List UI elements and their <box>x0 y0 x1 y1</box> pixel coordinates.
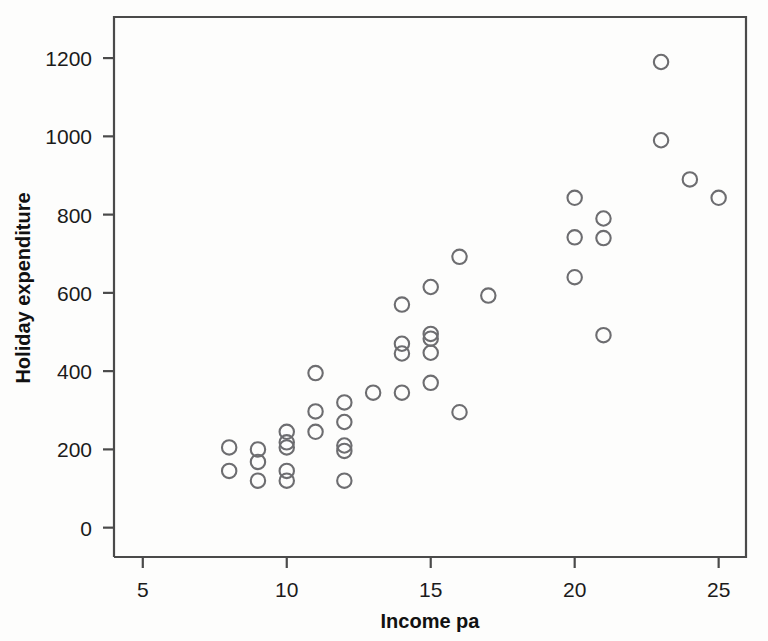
scatter-point <box>337 395 351 409</box>
scatter-point <box>596 211 610 225</box>
scatter-point <box>308 425 322 439</box>
scatter-point <box>222 464 236 478</box>
data-points <box>222 55 726 488</box>
y-tick-label: 0 <box>80 517 92 540</box>
scatter-point <box>395 297 409 311</box>
scatter-point <box>567 230 581 244</box>
scatter-point <box>308 404 322 418</box>
scatter-point <box>452 250 466 264</box>
y-tick-label: 1000 <box>45 125 92 148</box>
y-tick-label: 400 <box>57 360 92 383</box>
scatter-point <box>280 473 294 487</box>
x-tick-label: 10 <box>275 578 298 601</box>
x-axis-ticks: 510152025 <box>137 557 730 601</box>
y-tick-label: 200 <box>57 438 92 461</box>
scatter-point <box>567 191 581 205</box>
y-tick-label: 600 <box>57 282 92 305</box>
plot-canvas: 510152025 020040060080010001200 Income p… <box>0 0 768 641</box>
scatter-point <box>654 55 668 69</box>
scatter-point <box>424 280 438 294</box>
x-tick-label: 5 <box>137 578 149 601</box>
x-tick-label: 20 <box>563 578 586 601</box>
x-axis-title: Income pa <box>381 610 481 632</box>
scatter-point <box>424 346 438 360</box>
scatter-point <box>424 376 438 390</box>
scatter-point <box>683 172 697 186</box>
scatter-point <box>452 405 466 419</box>
y-tick-label: 1200 <box>45 47 92 70</box>
x-tick-label: 15 <box>419 578 442 601</box>
scatter-point <box>337 415 351 429</box>
plot-frame <box>114 17 746 557</box>
scatter-point <box>567 270 581 284</box>
scatter-point <box>711 191 725 205</box>
y-axis-title: Holiday expenditure <box>12 192 34 383</box>
scatter-point <box>395 385 409 399</box>
scatter-point <box>481 288 495 302</box>
scatter-plot-figure: 510152025 020040060080010001200 Income p… <box>0 0 768 641</box>
scatter-point <box>222 440 236 454</box>
x-tick-label: 25 <box>707 578 730 601</box>
scatter-point <box>251 473 265 487</box>
scatter-point <box>366 385 380 399</box>
y-axis-ticks: 020040060080010001200 <box>45 47 114 540</box>
scatter-point <box>395 346 409 360</box>
scatter-point <box>337 473 351 487</box>
scatter-point <box>596 231 610 245</box>
scatter-point <box>596 328 610 342</box>
scatter-point <box>308 366 322 380</box>
y-tick-label: 800 <box>57 204 92 227</box>
scatter-point <box>654 133 668 147</box>
